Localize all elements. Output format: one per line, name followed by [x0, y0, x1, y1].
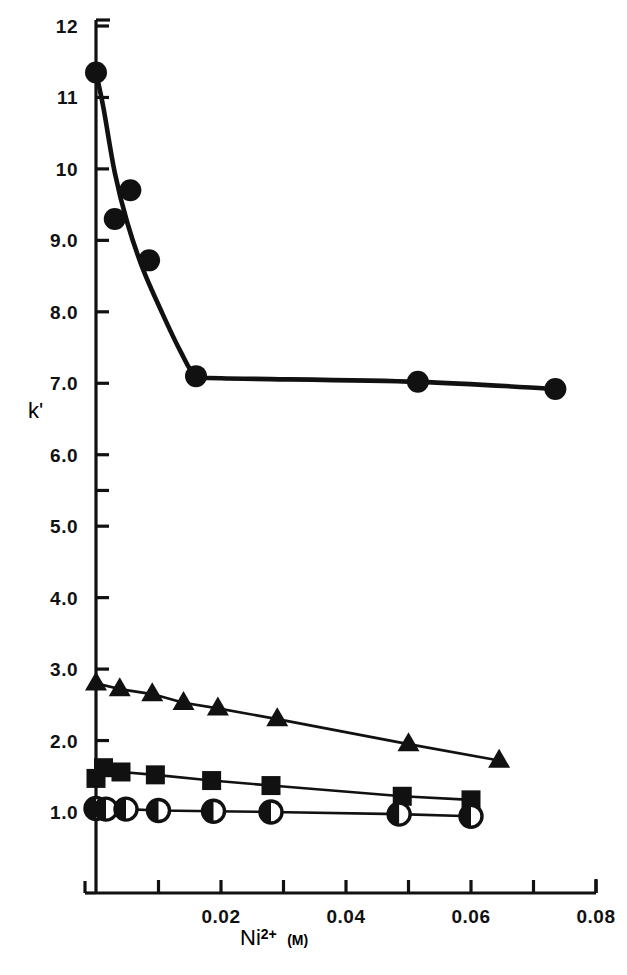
chart-figure: 1211109.08.07.06.05.04.03.02.01.00.020.0… [0, 0, 627, 975]
data-point-filled-square[interactable] [262, 776, 281, 795]
data-point-filled-circle[interactable] [138, 249, 160, 271]
y-axis-title-text: k' [28, 398, 43, 423]
data-point-filled-square[interactable] [112, 762, 131, 781]
data-point-half-filled-circle[interactable] [148, 800, 170, 822]
y-axis-title: k' [28, 398, 43, 424]
x-axis-title-superscript: 2+ [261, 926, 277, 942]
data-point-half-filled-circle[interactable] [203, 800, 225, 822]
y-tick-label: 2.0 [50, 731, 78, 752]
y-tick-label: 9.0 [50, 230, 78, 251]
data-point-filled-circle[interactable] [544, 378, 566, 400]
scatter-plot-svg: 1211109.08.07.06.05.04.03.02.01.00.020.0… [0, 0, 627, 975]
data-point-half-filled-circle[interactable] [388, 803, 410, 825]
y-tick-label: 1.0 [50, 802, 78, 823]
data-point-filled-circle[interactable] [407, 371, 429, 393]
x-tick-label: 0.06 [452, 906, 491, 927]
y-tick-label: 7.0 [50, 373, 78, 394]
data-point-half-filled-circle[interactable] [115, 798, 137, 820]
data-point-half-filled-circle[interactable] [460, 805, 482, 827]
y-tick-label: 8.0 [50, 302, 78, 323]
x-axis-title-base: Ni [240, 925, 261, 950]
data-point-filled-square[interactable] [94, 758, 113, 777]
x-tick-label: 0.08 [577, 906, 616, 927]
data-point-filled-circle[interactable] [104, 208, 126, 230]
y-tick-label: 11 [57, 87, 78, 108]
y-tick-label: 5.0 [50, 516, 78, 537]
x-tick-label: 0.04 [327, 906, 366, 927]
data-point-filled-square[interactable] [202, 771, 221, 790]
plot-background [0, 0, 627, 975]
x-axis-title: Ni2+ (M) [240, 925, 308, 951]
y-tick-label: 10 [56, 159, 78, 180]
y-tick-label: 3.0 [50, 659, 78, 680]
data-point-filled-circle[interactable] [119, 179, 141, 201]
data-point-filled-square[interactable] [146, 765, 165, 784]
data-point-half-filled-circle[interactable] [260, 801, 282, 823]
x-tick-label: 0.02 [202, 906, 241, 927]
data-point-filled-circle[interactable] [185, 365, 207, 387]
x-axis-title-unit: (M) [287, 932, 308, 948]
y-tick-label: 12 [56, 16, 78, 37]
data-point-filled-circle[interactable] [85, 61, 107, 83]
y-tick-label: 6.0 [50, 445, 78, 466]
y-tick-label: 4.0 [50, 588, 78, 609]
